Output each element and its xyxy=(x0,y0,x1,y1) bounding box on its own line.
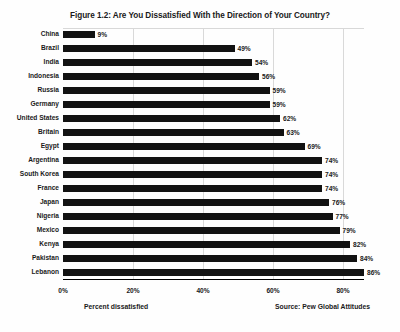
bar-value-japan: 76% xyxy=(332,197,345,208)
bar-germany xyxy=(63,101,270,108)
bar-egypt xyxy=(63,143,305,150)
bar-row: Indonesia56% xyxy=(63,71,364,85)
category-label-indonesia: Indonesia xyxy=(28,70,59,82)
bar-kenya xyxy=(63,241,350,248)
bar-row: Russia59% xyxy=(63,85,364,99)
bar-value-pakistan: 84% xyxy=(360,253,373,264)
bar-row: Lebanon86% xyxy=(63,267,364,281)
bar-row: Kenya82% xyxy=(63,239,364,253)
bar-row: Britain63% xyxy=(63,127,364,141)
category-label-united-states: United States xyxy=(17,112,59,124)
bar-lebanon xyxy=(63,269,364,276)
bar-value-brazil: 49% xyxy=(238,43,251,54)
bar-brazil xyxy=(63,45,235,52)
bar-row: China9% xyxy=(63,29,364,43)
bar-row: United States62% xyxy=(63,113,364,127)
bar-south-korea xyxy=(63,171,322,178)
bar-britain xyxy=(63,129,284,136)
x-tick-label: 0% xyxy=(58,287,68,294)
bar-nigeria xyxy=(63,213,333,220)
bar-united-states xyxy=(63,115,280,122)
category-label-south-korea: South Korea xyxy=(20,168,59,180)
bar-row: France74% xyxy=(63,183,364,197)
bar-mexico xyxy=(63,227,340,234)
x-tick-label: 20% xyxy=(126,287,139,294)
bar-value-china: 9% xyxy=(98,29,108,40)
bar-value-united-states: 62% xyxy=(283,113,296,124)
bar-row: Germany59% xyxy=(63,99,364,113)
category-label-india: India xyxy=(44,56,59,68)
bar-row: Brazil49% xyxy=(63,43,364,57)
bar-value-argentina: 74% xyxy=(325,155,338,166)
x-tick-label: 80% xyxy=(336,287,349,294)
bar-france xyxy=(63,185,322,192)
chart-title: Figure 1.2: Are You Dissatisfied With th… xyxy=(0,11,400,20)
x-tick-label: 60% xyxy=(266,287,279,294)
bar-value-egypt: 69% xyxy=(308,141,321,152)
bar-value-lebanon: 86% xyxy=(367,267,380,278)
bar-value-indonesia: 56% xyxy=(262,71,275,82)
category-label-germany: Germany xyxy=(30,98,59,110)
category-label-nigeria: Nigeria xyxy=(37,210,59,222)
bar-value-mexico: 79% xyxy=(343,225,356,236)
bar-russia xyxy=(63,87,270,94)
category-label-russia: Russia xyxy=(37,84,59,96)
bar-value-britain: 63% xyxy=(287,127,300,138)
bar-value-russia: 59% xyxy=(273,85,286,96)
bar-value-nigeria: 77% xyxy=(336,211,349,222)
bar-value-germany: 59% xyxy=(273,99,286,110)
bar-value-south-korea: 74% xyxy=(325,169,338,180)
category-label-pakistan: Pakistan xyxy=(32,252,59,264)
category-label-japan: Japan xyxy=(40,196,59,208)
category-label-kenya: Kenya xyxy=(39,238,59,250)
bar-india xyxy=(63,59,252,66)
source-note: Source: Pew Global Attitudes xyxy=(275,303,370,310)
bar-pakistan xyxy=(63,255,357,262)
bar-japan xyxy=(63,199,329,206)
x-tick-label: 40% xyxy=(196,287,209,294)
bar-value-india: 54% xyxy=(255,57,268,68)
bar-row: South Korea74% xyxy=(63,169,364,183)
bar-value-kenya: 82% xyxy=(353,239,366,250)
bar-row: Nigeria77% xyxy=(63,211,364,225)
figure-container: Figure 1.2: Are You Dissatisfied With th… xyxy=(0,0,400,332)
category-label-mexico: Mexico xyxy=(37,224,59,236)
category-label-china: China xyxy=(41,28,59,40)
bar-row: Pakistan84% xyxy=(63,253,364,267)
bar-row: Japan76% xyxy=(63,197,364,211)
category-label-egypt: Egypt xyxy=(41,140,59,152)
category-label-france: France xyxy=(37,182,59,194)
category-label-britain: Britain xyxy=(38,126,59,138)
bar-row: India54% xyxy=(63,57,364,71)
bar-row: Mexico79% xyxy=(63,225,364,239)
bar-row: Egypt69% xyxy=(63,141,364,155)
category-label-lebanon: Lebanon xyxy=(32,266,59,278)
category-label-argentina: Argentina xyxy=(28,154,59,166)
x-axis-label: Percent dissatisfied xyxy=(84,303,148,310)
x-axis: 0%20%40%60%80% xyxy=(63,282,364,296)
bar-china xyxy=(63,31,95,38)
bar-indonesia xyxy=(63,73,259,80)
bar-value-france: 74% xyxy=(325,183,338,194)
bar-rows: China9%Brazil49%India54%Indonesia56%Russ… xyxy=(63,29,364,279)
bar-row: Argentina74% xyxy=(63,155,364,169)
plot-area: China9%Brazil49%India54%Indonesia56%Russ… xyxy=(63,28,364,280)
category-label-brazil: Brazil xyxy=(41,42,59,54)
bar-argentina xyxy=(63,157,322,164)
